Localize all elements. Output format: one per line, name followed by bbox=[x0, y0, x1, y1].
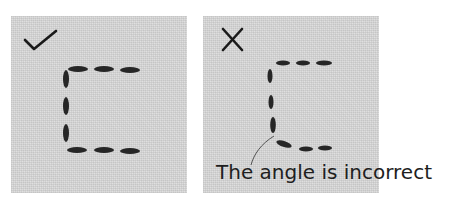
correct-example-panel bbox=[11, 16, 187, 193]
correct-stitch-pattern bbox=[11, 16, 187, 193]
error-caption: The angle is incorrect bbox=[216, 160, 432, 184]
